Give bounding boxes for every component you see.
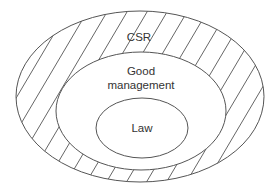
good-management-label-line2: management xyxy=(107,79,175,91)
nested-ellipse-diagram: CSR Good management Law xyxy=(0,0,277,193)
csr-label: CSR xyxy=(127,31,151,43)
good-management-label-line1: Good xyxy=(127,65,155,77)
law-label: Law xyxy=(131,122,153,134)
